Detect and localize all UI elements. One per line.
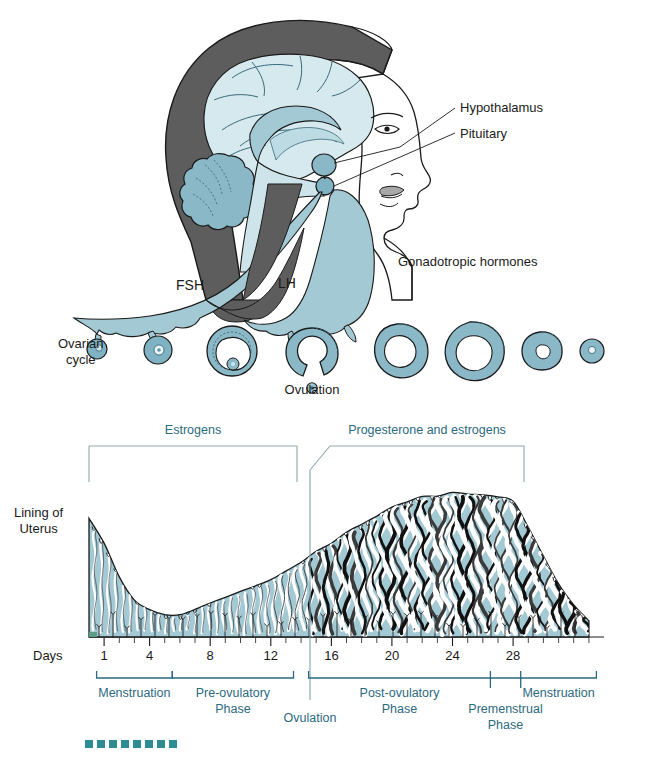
scale-square <box>145 740 153 748</box>
phase-bracket <box>521 671 597 678</box>
basal-layer-strip <box>89 632 97 637</box>
scale-square <box>97 740 105 748</box>
phase-bracket <box>490 678 520 688</box>
day-tick-label: 16 <box>324 648 338 663</box>
corpus-albicans <box>580 339 604 363</box>
phase-brackets <box>97 671 597 688</box>
label-lining-line2: Uterus <box>14 521 63 537</box>
day-tick-label: 12 <box>264 648 278 663</box>
corpus-luteum-regressing <box>522 332 562 370</box>
endometrium-chart <box>89 492 604 637</box>
head-illustration <box>166 20 455 322</box>
scale-square <box>121 740 129 748</box>
label-lining-of-uterus: Lining of Uterus <box>14 505 63 538</box>
day-tick-label: 8 <box>207 648 214 663</box>
day-tick-label: 20 <box>385 648 399 663</box>
scale-square <box>85 740 93 748</box>
label-lining-line1: Lining of <box>14 505 63 521</box>
phase-label-line2: Phase <box>468 718 542 734</box>
pupil <box>384 126 389 131</box>
corpus-luteum-early <box>375 324 428 378</box>
phase-label-line2: Phase <box>360 702 440 718</box>
phase-label: Post-ovulatoryPhase <box>360 686 440 717</box>
label-gonadotropic-hormones: Gonadotropic hormones <box>398 254 537 269</box>
label-ovulation-lower: Ovulation <box>284 711 337 725</box>
phase-label: Menstruation <box>98 686 170 702</box>
phase-bracket <box>97 671 173 678</box>
label-progesterone-and-estrogens: Progesterone and estrogens <box>348 423 506 437</box>
corpus-luteum-mature <box>445 322 504 381</box>
label-ovarian-cycle: Ovarian cycle <box>58 336 104 369</box>
scale-square <box>133 740 141 748</box>
figure-canvas <box>0 0 649 758</box>
gland-lumen <box>158 615 159 631</box>
gland-lumen <box>137 603 138 630</box>
hypothalamus-structure <box>312 154 336 176</box>
phase-bracket <box>309 671 491 678</box>
menstrual-cycle-figure: Hypothalamus Pituitary Gonadotropic horm… <box>0 0 649 758</box>
phase-label-line2: Phase <box>196 702 270 718</box>
day-tick-label: 24 <box>445 648 459 663</box>
phase-bracket <box>172 671 293 678</box>
phase-label-line1: Pre-ovulatory <box>196 686 270 702</box>
label-days-axis: Days <box>33 648 63 663</box>
label-hypothalamus: Hypothalamus <box>460 100 543 115</box>
phase-label: Menstruation <box>522 686 594 702</box>
label-pituitary: Pituitary <box>460 126 507 141</box>
follicle-primary <box>144 336 172 364</box>
phase-label: PremenstrualPhase <box>468 702 542 733</box>
follicle-graafian <box>207 326 257 376</box>
label-ovarian-cycle-line2: cycle <box>58 352 104 368</box>
estrogens-bracket <box>89 446 297 482</box>
gland-lumen <box>151 612 152 632</box>
day-axis-ticks <box>104 638 589 646</box>
label-ovulation-upper: Ovulation <box>285 382 340 397</box>
phase-label-line1: Premenstrual <box>468 702 542 718</box>
pituitary-gland <box>316 177 334 195</box>
label-estrogens: Estrogens <box>165 423 221 437</box>
phase-label: Pre-ovulatoryPhase <box>196 686 270 717</box>
label-lh: LH <box>278 275 296 291</box>
day-tick-label: 4 <box>146 648 153 663</box>
phase-label-line1: Post-ovulatory <box>360 686 440 702</box>
scale-square <box>169 740 177 748</box>
scale-square <box>157 740 165 748</box>
progesterone-bracket <box>310 446 524 482</box>
pituitary-stalk <box>324 176 325 179</box>
hormone-brackets <box>89 446 524 482</box>
label-fsh: FSH <box>176 277 204 293</box>
day-tick-label: 28 <box>506 648 520 663</box>
scale-bar-squares <box>85 740 177 748</box>
scale-square <box>109 740 117 748</box>
label-ovarian-cycle-line1: Ovarian <box>58 336 104 352</box>
day-tick-label: 1 <box>100 648 107 663</box>
